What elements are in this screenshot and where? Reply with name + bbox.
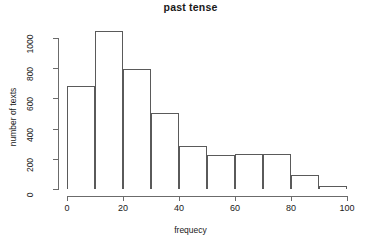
x-axis-tick-label: 20 bbox=[103, 203, 143, 213]
x-axis-tick bbox=[291, 196, 292, 201]
plot-area bbox=[67, 28, 347, 189]
y-axis-tick-label-text: 400 bbox=[25, 128, 35, 142]
y-axis-line bbox=[58, 38, 59, 190]
y-axis-tick-label: 0 bbox=[8, 184, 52, 195]
y-axis-tick bbox=[53, 159, 58, 160]
y-axis-tick-label-text: 200 bbox=[25, 158, 35, 172]
y-axis-tick bbox=[53, 129, 58, 130]
histogram-bar bbox=[95, 31, 123, 189]
y-axis-tick-label: 1000 bbox=[8, 33, 52, 44]
y-axis-title: number of texts bbox=[8, 88, 18, 147]
x-axis-tick bbox=[179, 196, 180, 201]
x-axis-tick-label: 40 bbox=[159, 203, 199, 213]
x-axis-tick bbox=[235, 196, 236, 201]
y-axis-tick-label-text: 1000 bbox=[25, 35, 35, 54]
histogram-plot: past tense 02004006008001000 02040608010… bbox=[0, 0, 381, 244]
histogram-bar bbox=[151, 113, 179, 189]
x-axis-tick-label: 60 bbox=[215, 203, 255, 213]
y-axis-tick-label-text: 0 bbox=[25, 193, 35, 198]
histogram-bar bbox=[179, 146, 207, 189]
x-axis-tick-label: 100 bbox=[327, 203, 367, 213]
x-axis-title: frequecy bbox=[0, 225, 381, 235]
histogram-bar bbox=[291, 175, 319, 189]
x-axis-tick bbox=[123, 196, 124, 201]
y-axis-tick bbox=[53, 98, 58, 99]
y-axis-tick bbox=[53, 38, 58, 39]
histogram-bar bbox=[67, 86, 95, 189]
histogram-bar bbox=[207, 155, 235, 189]
histogram-bar bbox=[235, 154, 263, 189]
x-axis-tick-label: 0 bbox=[47, 203, 87, 213]
x-axis-tick bbox=[67, 196, 68, 201]
y-axis-title-box: number of texts bbox=[6, 62, 20, 172]
x-axis-tick-label: 80 bbox=[271, 203, 311, 213]
y-axis-tick bbox=[53, 189, 58, 190]
histogram-bar bbox=[263, 154, 291, 189]
histogram-bar bbox=[319, 186, 347, 189]
y-axis-tick bbox=[53, 68, 58, 69]
x-axis-line bbox=[67, 196, 348, 197]
y-axis-tick-label-text: 800 bbox=[25, 67, 35, 81]
y-axis-tick-label-text: 600 bbox=[25, 97, 35, 111]
histogram-bar bbox=[123, 69, 151, 189]
x-axis-tick bbox=[347, 196, 348, 201]
chart-title: past tense bbox=[0, 1, 381, 13]
